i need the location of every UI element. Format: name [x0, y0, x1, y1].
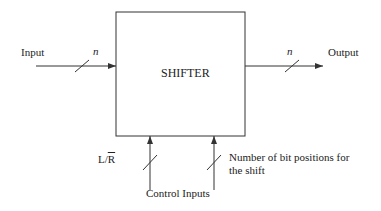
direction-label-prefix: L/ — [98, 153, 108, 165]
output-width-label: n — [287, 45, 293, 58]
output-label: Output — [328, 46, 359, 59]
control-inputs-label: Control Inputs — [146, 187, 210, 200]
direction-label-overbar: R — [108, 153, 115, 165]
input-width-label: n — [93, 45, 99, 58]
shifter-diagram: SHIFTER Input n n Output L/R Number of b… — [0, 0, 381, 211]
diagram-graphics — [0, 0, 381, 211]
shift-amount-label-line2: the shift — [229, 164, 265, 177]
input-label: Input — [21, 46, 44, 59]
shift-amount-label-line1: Number of bit positions for — [229, 151, 349, 164]
shifter-label: SHIFTER — [161, 67, 210, 80]
direction-label: L/R — [98, 153, 115, 166]
